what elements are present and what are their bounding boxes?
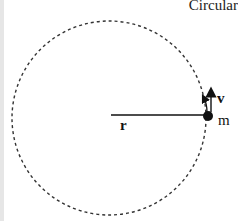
- circular-path: [12, 21, 206, 215]
- radius-label: r: [120, 118, 127, 133]
- velocity-label: v: [217, 91, 225, 106]
- mass-dot: [203, 111, 213, 121]
- circular-motion-diagram: [0, 0, 238, 221]
- mass-label: m: [218, 113, 230, 128]
